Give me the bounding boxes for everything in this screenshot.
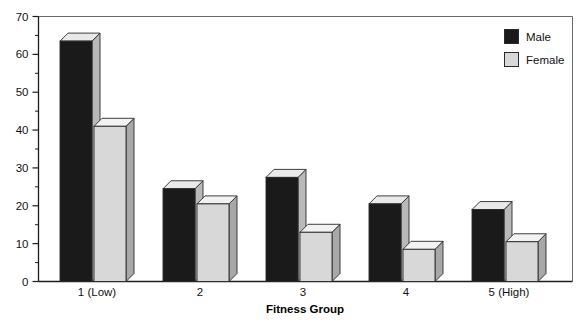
y-tick-label: 0 [22,276,28,288]
bar-side-face [332,224,340,281]
bar-front-face [60,41,92,281]
bar-chart: 010203040506070 1 (Low)2345 (High) Fitne… [0,0,587,324]
legend-swatch-female [505,53,519,67]
bar-front-face [300,232,332,281]
bar-front-face [94,126,126,281]
bar-female-group-1 [94,118,134,281]
bar-front-face [266,177,298,281]
bar-female-group-3 [300,224,340,281]
legend-label-female: Female [526,54,564,66]
x-tick-label: 2 [197,286,203,298]
y-tick-label: 20 [16,200,29,212]
bar-front-face [163,189,195,282]
x-tick-label: 5 (High) [489,286,530,298]
bar-side-face [126,118,134,281]
bar-front-face [403,249,435,281]
y-tick-label: 30 [16,162,29,174]
y-tick-label: 70 [16,11,29,23]
x-tick-label: 1 (Low) [78,286,117,298]
bar-female-group-5 [506,234,546,282]
legend-swatch-male [505,30,519,44]
y-tick-label: 60 [16,48,29,60]
bar-front-face [506,242,538,282]
chart-canvas: 010203040506070 1 (Low)2345 (High) Fitne… [0,0,587,324]
bar-front-face [197,204,229,282]
x-axis-title: Fitness Group [266,303,344,315]
legend-label-male: Male [526,31,551,43]
bar-female-group-4 [403,241,443,281]
y-tick-label: 40 [16,124,29,136]
x-tick-label: 3 [300,286,306,298]
legend-item-female: Female [505,53,565,67]
legend-item-male: Male [505,30,551,44]
bar-side-face [229,196,237,282]
x-tick-label: 4 [403,286,410,298]
bar-front-face [472,210,504,282]
bar-front-face [369,204,401,282]
y-tick-label: 10 [16,238,29,250]
y-tick-label: 50 [16,86,29,98]
bar-female-group-2 [197,196,237,282]
